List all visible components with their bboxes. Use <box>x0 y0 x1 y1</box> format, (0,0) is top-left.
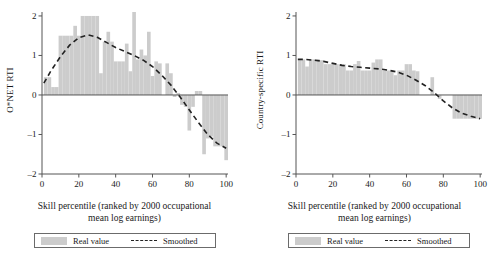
bar <box>73 26 77 95</box>
bar <box>217 95 221 146</box>
legend-item-smoothed: Smoothed <box>131 236 197 246</box>
x-tick-label: 40 <box>111 179 121 189</box>
bar <box>475 95 479 119</box>
legend-item-smoothed: Smoothed <box>385 236 451 246</box>
bar <box>88 16 92 95</box>
bar <box>118 61 122 95</box>
bar <box>154 61 158 95</box>
bar <box>132 12 136 95</box>
y-tick-label: 2 <box>286 11 291 21</box>
legend-bar-label: Real value <box>73 236 109 246</box>
x-tick-label: 60 <box>148 179 158 189</box>
bar <box>48 77 52 95</box>
bar <box>383 70 387 95</box>
bar <box>62 36 66 95</box>
bar <box>471 95 475 119</box>
y-tick-label: –1 <box>281 129 291 139</box>
bar <box>342 64 346 95</box>
bar-series <box>298 59 482 118</box>
bar-series <box>44 12 228 160</box>
x-tick-label: 80 <box>185 179 195 189</box>
bar <box>412 70 416 95</box>
x-axis-label-country-specific: Skill percentile (ranked by 2000 occupat… <box>250 200 499 224</box>
bar <box>316 59 320 95</box>
legend-line-label: Smoothed <box>163 236 197 246</box>
bar <box>81 16 85 95</box>
legend-dashed-line-icon <box>385 240 411 241</box>
y-axis-label-country-specific: Country-specific RTI <box>252 0 268 180</box>
figure-root: O*NET RTI –2–1012020406080100 Skill perc… <box>0 0 499 262</box>
bar <box>121 61 125 95</box>
bar <box>453 95 457 119</box>
bar <box>364 70 368 95</box>
x-tick-label: 0 <box>294 179 299 189</box>
bar <box>129 71 133 95</box>
bar <box>324 64 328 95</box>
y-tick-label: 2 <box>32 11 37 21</box>
chart-svg-onet: –2–1012020406080100 <box>18 8 232 188</box>
bar <box>165 63 169 95</box>
bar <box>346 70 350 95</box>
bar <box>478 95 482 119</box>
x-tick-label: 80 <box>439 179 449 189</box>
bar <box>338 64 342 95</box>
bar <box>210 95 214 136</box>
bar <box>397 70 401 95</box>
y-tick-label: –2 <box>281 169 291 179</box>
legend-bar-swatch-icon <box>41 237 67 245</box>
bar <box>349 70 353 95</box>
bar <box>103 42 107 95</box>
bar <box>221 95 225 146</box>
chart-panel-onet: O*NET RTI –2–1012020406080100 Skill perc… <box>0 0 249 262</box>
bar <box>309 59 313 95</box>
bar <box>405 64 409 95</box>
bar <box>394 75 398 95</box>
bar <box>140 50 144 95</box>
legend-bar-label: Real value <box>327 236 363 246</box>
bar <box>114 61 118 95</box>
legend-line-label: Smoothed <box>417 236 451 246</box>
bar <box>327 64 331 95</box>
bar <box>390 70 394 95</box>
x-tick-label: 0 <box>40 179 45 189</box>
bar <box>379 59 383 95</box>
y-tick-label: 0 <box>32 90 37 100</box>
bar <box>199 91 203 95</box>
legend-item-real-value: Real value <box>295 236 363 246</box>
bar <box>386 70 390 95</box>
bar <box>416 71 420 95</box>
bar <box>224 95 228 160</box>
y-tick-label: –1 <box>27 129 37 139</box>
bar <box>136 59 140 95</box>
bar <box>213 95 217 146</box>
bar <box>158 63 162 95</box>
bar <box>202 95 206 154</box>
bar <box>51 87 55 95</box>
bar <box>195 91 199 95</box>
bar <box>456 95 460 119</box>
plot-area-onet: –2–1012020406080100 <box>18 8 232 188</box>
bar <box>125 44 129 95</box>
bar <box>298 59 302 95</box>
bar <box>375 59 379 95</box>
bar <box>151 76 155 95</box>
y-axis-label-onet: O*NET RTI <box>2 0 18 180</box>
bar <box>372 63 376 95</box>
bar <box>84 16 88 95</box>
x-tick-label: 60 <box>402 179 412 189</box>
legend-item-real-value: Real value <box>41 236 109 246</box>
bar <box>95 16 99 95</box>
x-tick-label: 100 <box>219 179 233 189</box>
bar <box>191 95 195 107</box>
bar <box>357 61 361 95</box>
bar <box>335 64 339 95</box>
x-tick-label: 20 <box>74 179 84 189</box>
bar <box>360 70 364 95</box>
bar <box>92 16 96 95</box>
legend-onet: Real value Smoothed <box>34 233 216 248</box>
x-tick-label: 100 <box>473 179 487 189</box>
bar <box>305 67 309 95</box>
bar <box>320 60 324 95</box>
bar <box>106 32 110 95</box>
bar <box>147 32 151 95</box>
